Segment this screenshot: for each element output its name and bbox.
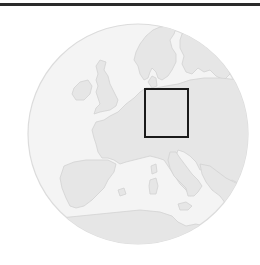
land-sardinia [149, 178, 158, 194]
land-corsica [151, 164, 157, 174]
europe-locator-map [0, 0, 260, 265]
land-north-africa [30, 210, 250, 265]
land-balearic-islands [118, 188, 126, 196]
